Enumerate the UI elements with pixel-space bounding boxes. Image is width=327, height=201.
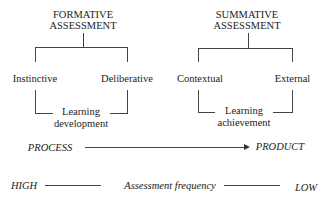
formative-stem [83,33,84,48]
summative-outcome-line2: achievement [209,117,279,129]
summative-title-line2: ASSESSMENT [207,20,287,32]
frequency-high-label: HIGH [8,180,40,192]
frequency-center-label: Assessment frequency [120,180,220,192]
summative-outcome-line1: Learning [214,105,274,117]
formative-outcome-line2: development [46,118,116,130]
formative-branch [35,47,128,48]
summative-left-rise [198,90,199,113]
formative-right-child: Deliberative [97,73,157,85]
summative-right-drop [292,48,293,62]
frequency-left-line [45,185,101,186]
frequency-right-line [224,185,280,186]
formative-left-drop [35,47,36,62]
summative-right-rise [292,90,293,113]
process-arrow-head-icon [244,144,250,150]
summative-bottom-right [273,112,293,113]
formative-left-rise [35,90,36,113]
formative-outcome-line1: Learning [51,106,111,118]
formative-left-child: Instinctive [5,73,65,85]
process-label: PROCESS [25,142,75,154]
summative-right-child: External [265,73,320,85]
formative-right-rise [127,90,128,113]
process-arrow-line [85,147,245,148]
summative-left-child: Contextual [170,73,230,85]
summative-branch [198,48,293,49]
product-label: PRODUCT [254,141,306,153]
summative-left-drop [198,48,199,62]
formative-right-drop [127,47,128,62]
frequency-low-label: LOW [292,182,320,194]
summative-bottom-left [198,112,215,113]
formative-bottom-right [110,113,128,114]
summative-stem [248,33,249,48]
formative-title-line2: ASSESSMENT [43,20,123,32]
